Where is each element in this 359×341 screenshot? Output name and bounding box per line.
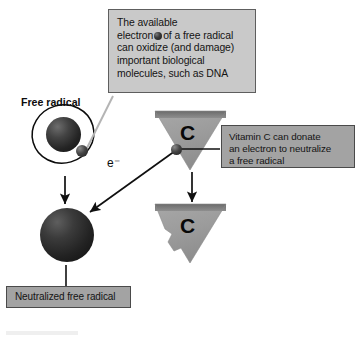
neutralized-callout: Neutralized free radical	[6, 286, 131, 308]
vitamin-c-callout: Vitamin C can donate an electron to neut…	[221, 125, 355, 168]
oxidize-callout-line-2: electronof a free radical	[117, 30, 249, 43]
oxidize-callout-line-4: important biological	[117, 55, 249, 68]
vitamin-c-callout-line-3: a free radical	[229, 155, 349, 167]
vitamin-c-callout-line-1: Vitamin C can donate	[229, 131, 349, 143]
oxidize-callout-line-5: molecules, such as DNA	[117, 68, 249, 81]
oxidize-callout-line-1: The available	[117, 17, 249, 30]
vitamin-c-callout-line-2: an electron to neutralize	[229, 143, 349, 155]
free-radical-nucleus-sphere	[46, 117, 81, 152]
oxidize-callout-leader	[86, 96, 113, 150]
vitamin-c-donated-electron	[171, 144, 182, 155]
free-radical-label: Free radical	[21, 96, 80, 108]
unpaired-electron-sphere	[76, 145, 88, 157]
vitamin-c-letter-top: C	[180, 121, 195, 145]
oxidize-callout-electron-word: electron	[117, 30, 153, 41]
electron-icon	[154, 32, 162, 40]
oxidize-callout: The available electronof a free radical …	[108, 9, 256, 93]
bottom-edge-artifact	[6, 331, 78, 335]
triangle-top-edge-depleted	[155, 204, 226, 211]
free-radical-vitamin-c-diagram: C C Free radical e⁻ The available electr…	[0, 0, 359, 341]
oxidize-callout-line-3: can oxidize (and damage)	[117, 42, 249, 55]
electron-symbol-label: e⁻	[107, 156, 120, 170]
triangle-top-edge-intact	[155, 111, 226, 118]
neutralized-callout-text: Neutralized free radical	[15, 291, 115, 303]
electron-transfer-arrow	[90, 151, 175, 212]
neutralized-radical-sphere	[40, 208, 94, 262]
vitamin-c-letter-bottom: C	[180, 214, 195, 238]
oxidize-callout-line-2-rest: of a free radical	[163, 30, 233, 41]
